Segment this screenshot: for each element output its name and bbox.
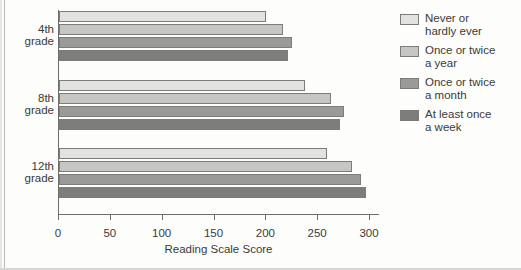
- legend-label-3: At least once a week: [425, 108, 491, 134]
- x-axis-tick-150: [214, 215, 215, 220]
- chart-figure: 4th grade8th grade12th grade 05010015020…: [0, 0, 521, 270]
- x-axis-tick-100: [162, 215, 163, 220]
- x-axis-tick-label-0: 0: [55, 227, 61, 239]
- x-axis-tick-label-150: 150: [204, 227, 223, 239]
- x-axis-title: Reading Scale Score: [58, 243, 379, 255]
- bar-4th-grade-series-1: [59, 24, 283, 35]
- bar-4th-grade-series-3: [59, 50, 288, 61]
- bar-4th-grade-series-2: [59, 37, 292, 48]
- legend-item-1: Once or twice a year: [400, 44, 520, 70]
- legend-swatch-icon-2: [400, 78, 419, 89]
- x-axis-tick-label-100: 100: [152, 227, 171, 239]
- x-axis-tick-label-200: 200: [256, 227, 275, 239]
- bar-12th-grade-series-0: [59, 148, 327, 159]
- y-axis-label-4th-grade: 4th grade: [2, 23, 54, 47]
- x-axis-tick-200: [265, 215, 266, 220]
- bar-12th-grade-series-1: [59, 161, 352, 172]
- legend-label-2: Once or twice a month: [425, 76, 495, 102]
- bar-12th-grade-series-3: [59, 187, 366, 198]
- bar-8th-grade-series-3: [59, 119, 340, 130]
- x-axis-tick-label-50: 50: [103, 227, 116, 239]
- y-axis-label-8th-grade: 8th grade: [2, 92, 54, 116]
- legend-label-1: Once or twice a year: [425, 44, 495, 70]
- x-axis-tick-label-300: 300: [359, 227, 378, 239]
- y-axis-label-12th-grade: 12th grade: [2, 160, 54, 184]
- legend-item-3: At least once a week: [400, 108, 520, 134]
- legend-swatch-icon-3: [400, 110, 419, 121]
- legend-swatch-icon-1: [400, 46, 419, 57]
- x-axis-tick-250: [317, 215, 318, 220]
- bar-8th-grade-series-0: [59, 80, 305, 91]
- legend-label-0: Never or hardly ever: [425, 12, 482, 38]
- x-axis-tick-300: [369, 215, 370, 220]
- x-axis-tick-0: [58, 215, 59, 220]
- legend-item-2: Once or twice a month: [400, 76, 520, 102]
- x-axis-tick-50: [110, 215, 111, 220]
- x-axis-tick-label-250: 250: [308, 227, 327, 239]
- bar-8th-grade-series-1: [59, 93, 331, 104]
- legend-swatch-icon-0: [400, 14, 419, 25]
- y-axis-category-labels: 4th grade8th grade12th grade: [0, 10, 54, 215]
- bar-12th-grade-series-2: [59, 174, 361, 185]
- chart-legend: Never or hardly everOnce or twice a year…: [400, 12, 520, 140]
- x-axis-line: [58, 214, 379, 215]
- legend-item-0: Never or hardly ever: [400, 12, 520, 38]
- bar-4th-grade-series-0: [59, 11, 266, 22]
- plot-area: 050100150200250300: [58, 10, 379, 215]
- bar-8th-grade-series-2: [59, 106, 344, 117]
